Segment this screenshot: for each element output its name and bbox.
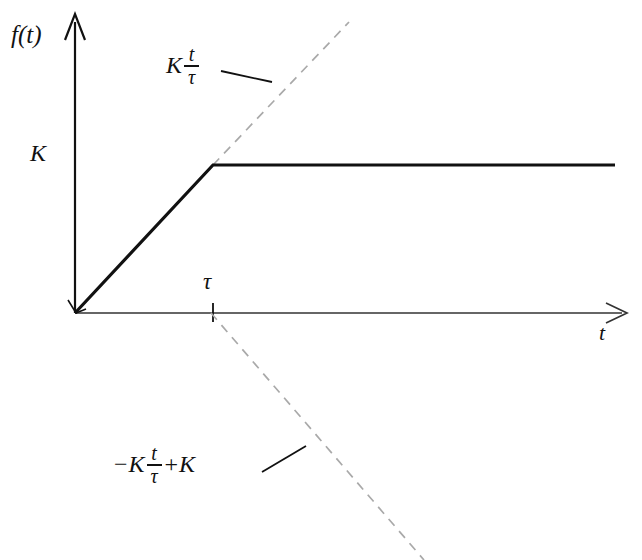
annotation-lower-trailing: K (179, 451, 195, 478)
annotation-upper-fraction: t τ (184, 44, 199, 88)
annotation-lower-denominator: τ (147, 466, 160, 487)
leader-line-lower (262, 446, 306, 472)
dashed-line-ramp-extension (213, 22, 349, 165)
annotation-lower-plus: + (164, 451, 180, 478)
annotation-upper-equation: K t τ (166, 44, 201, 88)
annotation-upper-denominator: τ (185, 67, 198, 88)
curve-saturating-ramp (75, 165, 615, 313)
y-axis-label: f(t) (11, 22, 42, 47)
y-axis (65, 14, 85, 313)
y-tick-label-k: K (30, 141, 46, 165)
x-tick-label-tau: τ (203, 270, 211, 293)
annotation-lower-lead: K (129, 451, 145, 478)
annotation-upper-numerator: t (186, 44, 198, 65)
x-axis (75, 303, 627, 323)
annotation-lower-fraction: t τ (147, 443, 162, 487)
dashed-line-negative-ramp (211, 313, 424, 560)
figure-canvas: f(t) t K τ K t τ − K t τ + K (0, 0, 642, 560)
plot-svg (0, 0, 642, 560)
x-axis-label: t (599, 322, 605, 344)
annotation-lower-equation: − K t τ + K (113, 443, 195, 487)
annotation-lower-numerator: t (148, 443, 160, 464)
annotation-upper-lead: K (166, 52, 182, 79)
annotation-lower-minus: − (113, 451, 129, 478)
leader-line-upper (221, 71, 272, 82)
